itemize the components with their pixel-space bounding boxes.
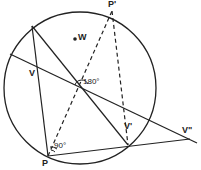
label-w: W bbox=[78, 33, 87, 42]
label-v-double-prime: V" bbox=[182, 126, 192, 135]
geometry-diagram bbox=[0, 0, 201, 170]
label-v: V bbox=[29, 69, 35, 78]
label-angle-90: 90° bbox=[54, 142, 66, 150]
line-a-to-p bbox=[32, 26, 48, 156]
label-p: P bbox=[42, 159, 48, 168]
label-p-prime: P' bbox=[108, 0, 116, 9]
line-a-to-b bbox=[32, 26, 128, 145]
point-w-dot bbox=[73, 37, 77, 41]
label-v-prime: V' bbox=[124, 122, 132, 131]
label-angle-180: 180° bbox=[83, 78, 100, 86]
line-chord-to-v-double-prime bbox=[10, 54, 197, 143]
angle-arc-90-inner bbox=[51, 150, 55, 152]
